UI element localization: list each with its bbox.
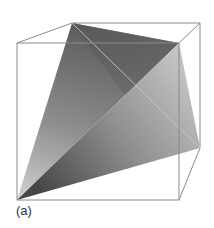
figure-caption: (a) xyxy=(16,203,32,218)
tetrahedron-in-cube-diagram xyxy=(0,0,214,228)
